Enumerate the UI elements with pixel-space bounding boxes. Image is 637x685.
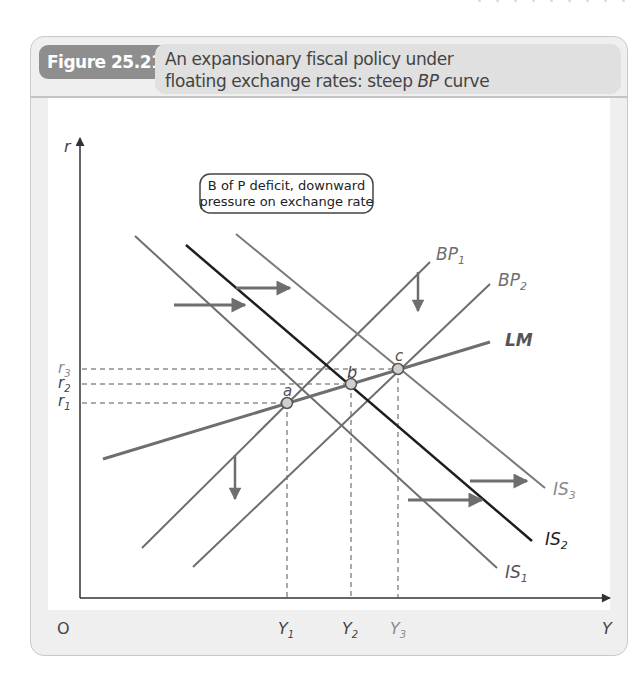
axis-label-strip: [48, 610, 610, 654]
point-a-label: a: [283, 382, 292, 400]
r1-label: r1: [58, 392, 71, 412]
guide-lines: [82, 369, 398, 598]
callout-line1: B of P deficit, downward: [208, 178, 365, 193]
bp2-label: BP2: [498, 270, 527, 293]
is1-curve: [135, 236, 497, 568]
is-lm-bp-diagram: B of P deficit, downward pressure on exc…: [0, 0, 637, 685]
callout-line2: pressure on exchange rate: [199, 194, 373, 209]
y-axis-label: r: [64, 137, 72, 156]
bp1-label: BP1: [436, 244, 465, 267]
point-c-label: c: [395, 347, 404, 365]
lm-curve: [103, 342, 490, 459]
point-c-marker: [393, 364, 404, 375]
point-b-label: b: [347, 363, 357, 382]
origin-label: O: [57, 619, 70, 638]
is1-label: IS1: [505, 562, 528, 585]
x-axis-label: Y: [602, 619, 613, 638]
is2-label: IS2: [545, 529, 568, 552]
lm-label: LM: [505, 330, 533, 350]
is3-label: IS3: [553, 479, 576, 502]
